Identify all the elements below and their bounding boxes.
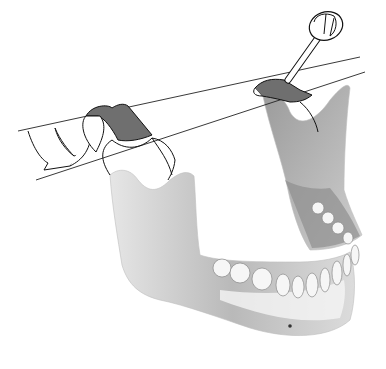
rotation-arrow <box>28 125 92 170</box>
driver-instrument <box>288 7 347 80</box>
right-condyle-band <box>254 79 312 102</box>
mental-foramen <box>288 324 292 328</box>
mandible <box>110 85 362 335</box>
mandible-illustration <box>0 0 386 369</box>
illustration <box>0 0 386 369</box>
